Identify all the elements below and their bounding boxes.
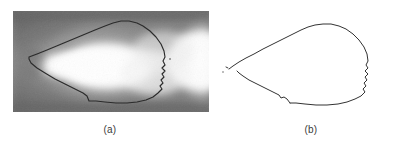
extracted-contour-canvas — [213, 11, 388, 112]
caption-panel-a: (a) — [90, 123, 130, 136]
contour-overlay-canvas — [13, 11, 209, 112]
traced-boundary-path — [29, 21, 165, 103]
panel-a — [13, 11, 209, 112]
figure-container: (a) (b) — [0, 0, 398, 144]
extracted-boundary-upper-path — [229, 24, 368, 105]
extracted-boundary-lower-path — [237, 71, 290, 103]
contour-overlay — [13, 11, 209, 112]
contour-speck — [169, 58, 171, 60]
extracted-boundary-fragment — [226, 67, 228, 68]
caption-panel-b: (b) — [291, 123, 331, 136]
panel-b — [213, 11, 388, 112]
extracted-boundary-speck — [222, 71, 223, 72]
